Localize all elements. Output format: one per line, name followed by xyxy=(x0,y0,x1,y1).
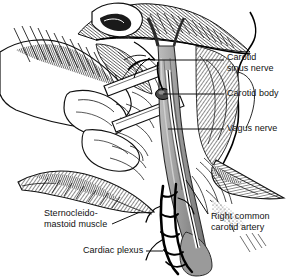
label-carotid-sinus-nerve: Carotid sinus nerve xyxy=(227,52,274,73)
label-carotid-body: Carotid body xyxy=(227,88,279,99)
carotid-body-illustration: Carotid sinus nerve Carotid body Vagus n… xyxy=(0,0,302,279)
label-right-common-carotid-line2: carotid artery xyxy=(211,222,270,233)
label-vagus-nerve-line1: Vagus nerve xyxy=(227,123,277,134)
label-sternocleidomastoid-muscle: Sternocleido- mastoid muscle xyxy=(44,208,107,229)
label-carotid-sinus-nerve-line2: sinus nerve xyxy=(227,63,274,74)
label-cardiac-plexus: Cardiac plexus xyxy=(83,245,143,256)
label-sternocleidomastoid-line1: Sternocleido- xyxy=(44,208,107,219)
label-sternocleidomastoid-line2: mastoid muscle xyxy=(44,219,107,230)
anatomical-drawing xyxy=(0,0,302,279)
label-right-common-carotid-line1: Right common xyxy=(211,211,270,222)
label-cardiac-plexus-line1: Cardiac plexus xyxy=(83,245,143,256)
label-right-common-carotid-artery: Right common carotid artery xyxy=(211,211,270,232)
label-vagus-nerve: Vagus nerve xyxy=(227,123,277,134)
label-carotid-sinus-nerve-line1: Carotid xyxy=(227,52,274,63)
label-carotid-body-line1: Carotid body xyxy=(227,88,279,99)
